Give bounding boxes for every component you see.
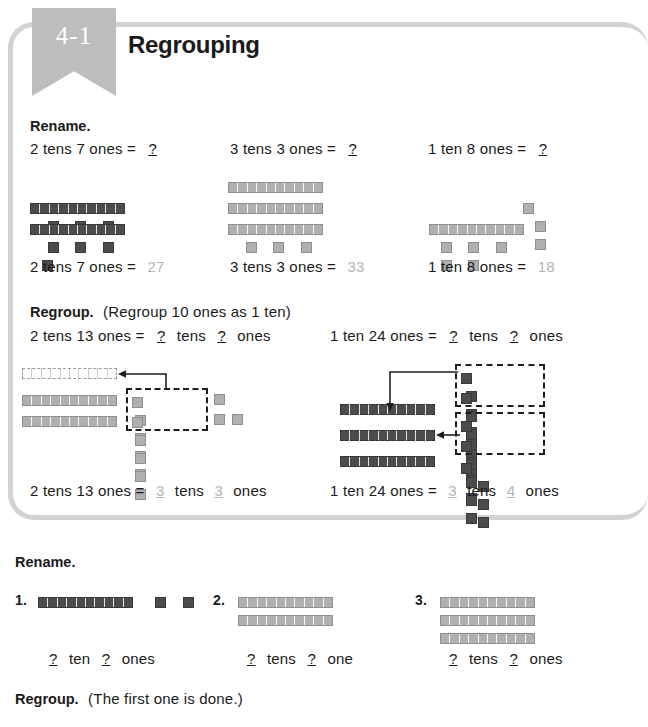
rename-answer-value-1: 27 (141, 258, 164, 275)
regroup-note: (Regroup 10 ones as 1 ten) (103, 303, 291, 320)
regroup-tens-blank-1[interactable]: ? (150, 327, 173, 344)
rename-answer-row-3: 1 ten 8 ones = 18 (428, 258, 555, 275)
regroup-prompt-1: 2 tens 13 ones = ? tens ? ones (30, 327, 271, 344)
item-3-ones-blank[interactable]: ? (502, 650, 525, 667)
ten-rod (440, 615, 535, 626)
one-cube (523, 203, 534, 214)
rename-answer-value-2: 33 (341, 258, 364, 275)
one-cube (461, 463, 472, 474)
rename-prompt-1: 2 tens 7 ones = ? (30, 140, 164, 157)
item-number-3: 3. (415, 592, 427, 608)
regroup-arrow-left (118, 366, 278, 392)
one-cube (214, 414, 225, 425)
one-cube (135, 471, 146, 482)
item-3-answer-row: ? tens ? ones (442, 650, 563, 667)
page-title: Regrouping (128, 31, 260, 59)
regroup-answer-tens-2: 3 (442, 482, 463, 499)
ten-rod (228, 203, 323, 214)
ten-rod (340, 456, 435, 467)
equals-sign: = (428, 327, 438, 344)
regroup-heading-bottom: Regroup. (15, 691, 79, 707)
rename-prompt-2-text: 3 tens 3 ones (230, 140, 323, 157)
regroup-prompt-2: 1 ten 24 ones = ? tens ? ones (330, 327, 563, 344)
one-cube (535, 221, 546, 232)
equals-sign: = (127, 258, 137, 275)
one-cube (132, 417, 143, 428)
rename-prompt-3: 1 ten 8 ones = ? (428, 140, 554, 157)
item-1-tens-blank[interactable]: ? (42, 650, 65, 667)
one-cube (48, 242, 59, 253)
item-number-1: 1. (15, 592, 27, 608)
regroup-answer-row-2: 1 ten 24 ones = 3 tens 4 ones (330, 482, 559, 499)
rename-answer-blank-2[interactable]: ? (341, 140, 364, 157)
rename-answer-prompt-1: 2 tens 7 ones (30, 258, 123, 275)
one-cube (468, 242, 479, 253)
equals-sign: = (127, 140, 137, 157)
ten-rod (429, 224, 524, 235)
ten-rod (30, 224, 125, 235)
regroup-answer-prompt-2: 1 ten 24 ones (330, 482, 424, 499)
item-number-2: 2. (213, 592, 225, 608)
item-3-tens-blank[interactable]: ? (442, 650, 465, 667)
regroup-ones-blank-1[interactable]: ? (210, 327, 233, 344)
one-cube (132, 397, 143, 408)
regroup-answer-tens-1: 3 (150, 482, 171, 499)
one-cube (135, 453, 146, 464)
one-cube (135, 435, 146, 446)
ones-label: ones (237, 327, 270, 344)
equals-sign: = (517, 258, 527, 275)
one-cube (246, 242, 257, 253)
rename-heading-top: Rename. (30, 118, 90, 134)
ten-rod (38, 597, 133, 608)
equals-sign: = (136, 482, 146, 499)
rename-answer-prompt-2: 3 tens 3 ones (230, 258, 323, 275)
one-cube (75, 242, 86, 253)
item-2-tens-blank[interactable]: ? (240, 650, 263, 667)
regroup-answer-row-1: 2 tens 13 ones = 3 tens 3 ones (30, 482, 267, 499)
rename-answer-row-1: 2 tens 7 ones = 27 (30, 258, 164, 275)
item-1-ones-blank[interactable]: ? (95, 650, 118, 667)
item-2-answer-row: ? tens ? one (240, 650, 353, 667)
equals-sign: = (327, 258, 337, 275)
ten-rod (228, 182, 323, 193)
regroup-answer-ones-1: 3 (208, 482, 229, 499)
ten-rod (22, 416, 117, 427)
one-cube (232, 414, 243, 425)
ones-label: ones (233, 482, 266, 499)
ones-label: ones (530, 327, 563, 344)
tens-label: tens (267, 650, 296, 667)
one-cube (183, 597, 194, 608)
ones-label: one (327, 650, 353, 667)
one-cube (496, 242, 507, 253)
item-2-ones-blank[interactable]: ? (300, 650, 323, 667)
blocks-item-1 (38, 594, 194, 612)
regroup-note-bottom: (The first one is done.) (88, 690, 243, 707)
ten-rod (30, 203, 125, 214)
rename-answer-blank-1[interactable]: ? (141, 140, 164, 157)
regroup-tens-blank-2[interactable]: ? (442, 327, 465, 344)
regroup-prompt-2-text: 1 ten 24 ones (330, 327, 424, 344)
rename-prompt-2: 3 tens 3 ones = ? (230, 140, 364, 157)
one-cube (155, 597, 166, 608)
regroup-heading: Regroup. (30, 304, 94, 320)
rename-answer-blank-3[interactable]: ? (532, 140, 555, 157)
item-1-answer-row: ? ten ? ones (42, 650, 155, 667)
regroup-ones-blank-2[interactable]: ? (503, 327, 526, 344)
ones-label: ones (529, 650, 562, 667)
ten-rod (238, 597, 333, 608)
regroup-heading-bottom-row: Regroup. (The first one is done.) (15, 690, 243, 708)
ten-rod (440, 633, 535, 644)
ten-rod (238, 615, 333, 626)
rename-prompt-1-text: 2 tens 7 ones (30, 140, 123, 157)
one-cube (535, 239, 546, 250)
tens-label: tens (467, 482, 496, 499)
tens-label: tens (177, 327, 206, 344)
regroup-answer-prompt-1: 2 tens 13 ones (30, 482, 131, 499)
rename-answer-value-3: 18 (532, 258, 555, 275)
one-cube (214, 394, 225, 405)
ten-rod (228, 224, 323, 235)
equals-sign: = (428, 482, 438, 499)
ten-rod (440, 597, 535, 608)
lesson-number: 4-1 (32, 22, 116, 50)
equals-sign: = (517, 140, 527, 157)
